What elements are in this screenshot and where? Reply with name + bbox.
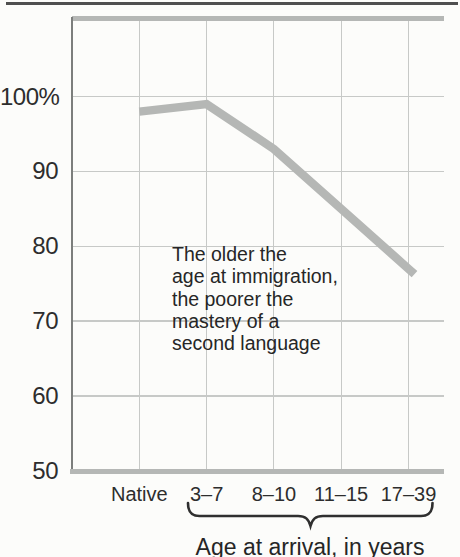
h-gridline [72,171,444,173]
y-axis-line [71,17,73,474]
y-tick-label: 100% [0,84,58,110]
v-gridline [408,18,409,471]
y-tick-label: 80 [0,233,58,259]
x-axis-title: Age at arrival, in years [160,534,460,557]
y-tick-label: 60 [0,383,58,409]
h-gridline [72,96,444,98]
x-axis-baseline [70,469,444,474]
y-tick-label: 70 [0,308,58,334]
brace-path [188,503,433,526]
v-gridline [139,18,140,471]
book-page: 100%9080706050 Native3–78–1011–1517–39 T… [0,0,460,557]
age-range-brace-icon [180,498,440,534]
second-language-mastery-chart: 100%9080706050 Native3–78–1011–1517–39 T… [0,0,460,557]
chart-annotation: The older the age at immigration, the po… [172,243,382,354]
h-gridline [72,395,444,397]
y-tick-label: 90 [0,158,58,184]
plot-top-border [72,16,444,21]
y-tick-label: 50 [0,458,58,484]
